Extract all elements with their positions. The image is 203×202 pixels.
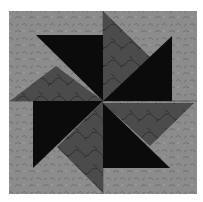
- pinwheel-image: [0, 0, 203, 202]
- quilt-block: [9, 11, 197, 194]
